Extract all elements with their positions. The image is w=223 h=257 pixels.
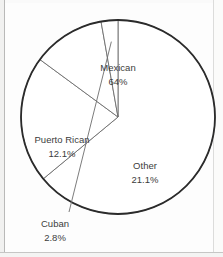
- slice-label-name: Mexican: [100, 62, 135, 73]
- slice-label-value: 64%: [108, 76, 128, 87]
- slice-label-value: 12.1%: [49, 148, 76, 159]
- pie-chart: Mexican64%Other21.1%Puerto Rican12.1%Cub…: [0, 0, 223, 257]
- pie-slice-group: [21, 20, 215, 214]
- slice-label-name: Puerto Rican: [35, 134, 90, 145]
- slice-label-value: 21.1%: [132, 174, 159, 185]
- chart-page: Mexican64%Other21.1%Puerto Rican12.1%Cub…: [0, 0, 223, 257]
- slice-label-value: 2.8%: [44, 232, 66, 243]
- slice-label-name: Cuban: [41, 218, 69, 229]
- slice-label-name: Other: [133, 160, 157, 171]
